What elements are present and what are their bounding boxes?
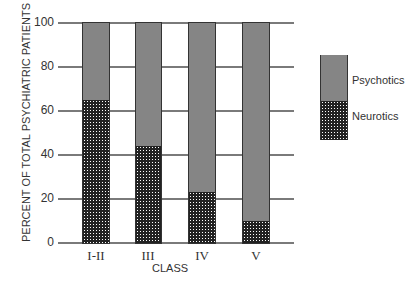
bar-IV-neurotics [189,192,215,243]
y-axis-label: PERCENT OF TOTAL PSYCHIATRIC PATIENTS [20,3,32,242]
legend: Psychotics Neurotics [320,55,420,145]
x-axis-label: CLASS [152,262,188,274]
bar-V [242,22,270,244]
bar-I-II-neurotics [83,100,109,243]
bar-III-neurotics [136,146,161,243]
legend-swatch [320,55,348,140]
legend-neurotics: Neurotics [352,110,398,122]
bar-IV [188,22,216,244]
x-tick-V: V [236,248,276,264]
bar-V-neurotics [243,221,269,243]
legend-psychotics: Psychotics [352,74,405,86]
legend-neurotics-swatch [321,101,347,140]
x-tick-I-II: I-II [76,248,116,264]
bar-III [135,22,162,244]
bar-I-II [82,22,110,244]
